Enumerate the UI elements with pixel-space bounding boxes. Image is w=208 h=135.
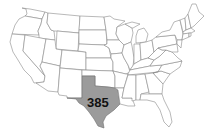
state-north-dakota[interactable] bbox=[79, 16, 106, 30]
state-florida[interactable] bbox=[140, 94, 172, 127]
state-new-jersey[interactable] bbox=[177, 40, 182, 48]
us-map: 385 bbox=[0, 0, 208, 135]
state-wyoming[interactable] bbox=[56, 31, 79, 51]
state-rhode-island[interactable] bbox=[189, 33, 191, 37]
us-map-svg bbox=[0, 0, 208, 135]
state-maine[interactable] bbox=[188, 4, 204, 28]
state-connecticut[interactable] bbox=[182, 33, 189, 40]
state-oregon[interactable] bbox=[12, 16, 42, 35]
state-colorado[interactable] bbox=[60, 50, 86, 70]
state-kansas[interactable] bbox=[86, 58, 113, 71]
state-new-mexico[interactable] bbox=[58, 68, 82, 98]
texas-value-label: 385 bbox=[87, 95, 109, 110]
state-montana[interactable] bbox=[47, 13, 80, 33]
state-south-dakota[interactable] bbox=[79, 30, 107, 45]
